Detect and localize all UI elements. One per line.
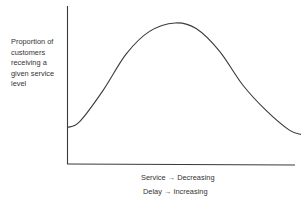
x-axis [67, 164, 295, 165]
x-axis-label-delay: Delay → Increasing [143, 187, 307, 196]
x-axis-label-service: Service → Decreasing [141, 173, 307, 182]
distribution-curve [68, 23, 301, 135]
chart-plot-area [0, 0, 307, 200]
